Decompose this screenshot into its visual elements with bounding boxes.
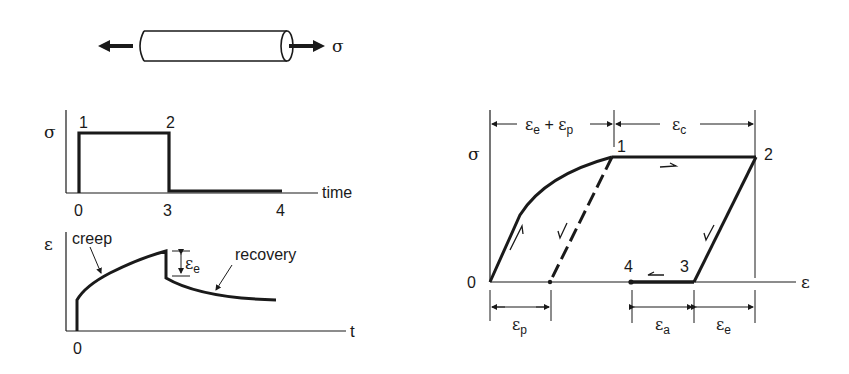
t-tick-0: 0 bbox=[73, 340, 82, 357]
time-tick-4: 4 bbox=[276, 202, 285, 219]
time-tick-3: 3 bbox=[163, 202, 172, 219]
strain-time-plot: εe creep recovery ε t 0 bbox=[44, 230, 355, 357]
stress-axis-label: σ bbox=[44, 122, 56, 142]
epsilon-axis-label: ε bbox=[801, 272, 810, 292]
dim-elastic-plus-plastic: εe + εp bbox=[525, 115, 574, 137]
ss-point-1: 1 bbox=[617, 138, 626, 155]
t-axis-label: t bbox=[350, 322, 355, 341]
loading-curve bbox=[490, 157, 612, 282]
creep-curve bbox=[77, 251, 276, 331]
dim-elastic-strain: εe bbox=[716, 315, 731, 337]
strain-axis-label: ε bbox=[44, 234, 53, 254]
dashed-unload-line bbox=[550, 157, 612, 282]
dim-creep-strain: εc bbox=[672, 115, 686, 137]
origin-label: 0 bbox=[467, 274, 476, 291]
sigma-axis-label: σ bbox=[468, 144, 480, 164]
ss-point-3: 3 bbox=[680, 258, 689, 275]
point-1-label: 1 bbox=[79, 114, 88, 131]
unloading-segment bbox=[694, 157, 756, 282]
recovery-label: recovery bbox=[235, 246, 296, 263]
time-axis-label: time bbox=[322, 184, 352, 201]
dim-anelastic-strain: εa bbox=[655, 315, 670, 337]
cylinder-body bbox=[140, 31, 287, 61]
elastic-strain-label: εe bbox=[185, 254, 200, 276]
specimen-bar: σ bbox=[98, 31, 344, 61]
creep-recovery-diagram: σ σ time 1 2 0 3 4 εe creep recovery ε t… bbox=[0, 0, 849, 374]
ss-point-2: 2 bbox=[764, 146, 773, 163]
creep-label: creep bbox=[72, 230, 112, 247]
point-2-label: 2 bbox=[166, 114, 175, 131]
time-tick-0: 0 bbox=[74, 202, 83, 219]
dim-plastic-strain: εp bbox=[512, 315, 527, 337]
specimen-stress-label: σ bbox=[332, 36, 344, 56]
stress-pulse bbox=[79, 133, 282, 193]
stress-time-plot: σ time 1 2 0 3 4 bbox=[44, 110, 352, 219]
ss-point-4: 4 bbox=[624, 258, 633, 275]
stress-strain-plot: σ ε 0 εe + εp εc εp εa εe bbox=[467, 110, 810, 337]
